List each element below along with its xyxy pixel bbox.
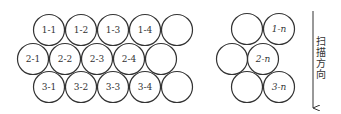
cell-label-2-2: 2-2: [58, 54, 73, 64]
cell-label-1-2: 1-2: [74, 25, 89, 35]
scan-char: 向: [315, 69, 327, 80]
cell-circle: [232, 14, 263, 45]
cell-label-1-4: 1-4: [138, 25, 153, 35]
scan-char: 描: [315, 47, 327, 58]
cell-label-3-2: 3-2: [74, 82, 89, 92]
cell-label-3-4: 3-4: [138, 82, 153, 92]
scan-direction-label: 扫 描 方 向: [315, 36, 327, 80]
cell-label-1-1: 1-1: [42, 25, 57, 35]
cell-label-2-1: 2-1: [26, 54, 41, 64]
cell-label-2-4: 2-4: [122, 54, 137, 64]
cell-label-3-3: 3-3: [106, 82, 121, 92]
cell-circle: [146, 44, 177, 75]
cell-label-1-n: 1-n: [272, 24, 287, 34]
scan-diagram: 1-1 1-2 1-3 1-4 2-1 2-2 2-3 2-4 3-1 3-2 …: [0, 0, 341, 114]
cell-label-3-1: 3-1: [42, 82, 57, 92]
cell-circle: [217, 44, 248, 75]
cell-label-2-n: 2-n: [255, 54, 271, 64]
cell-label-3-n: 3-n: [272, 82, 287, 92]
cell-circle: [162, 15, 193, 46]
scan-char: 扫: [315, 36, 327, 47]
cell-circle: [232, 72, 263, 103]
cell-label-2-3: 2-3: [90, 54, 105, 64]
scan-char: 方: [315, 58, 327, 69]
cell-circle: [162, 72, 193, 103]
cell-label-1-3: 1-3: [106, 25, 121, 35]
